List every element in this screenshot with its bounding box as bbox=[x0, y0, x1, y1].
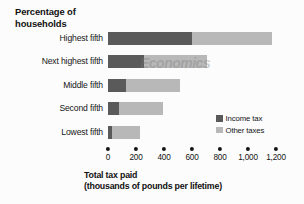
axis-tick-dot bbox=[134, 147, 138, 151]
axis-tick-dot bbox=[218, 147, 222, 151]
category-label: Next highest fifth bbox=[3, 55, 103, 68]
value-axis: 02004006008001,0001,200 bbox=[108, 147, 276, 167]
axis-tick-dot bbox=[190, 147, 194, 151]
legend-swatch-icon bbox=[216, 127, 223, 134]
bar-segment-income-tax bbox=[108, 55, 144, 68]
axis-tick-label: 600 bbox=[185, 153, 198, 163]
legend-item: Income tax bbox=[216, 113, 264, 124]
bar-segment-other-taxes bbox=[192, 32, 272, 45]
bar-segment-income-tax bbox=[108, 79, 126, 92]
legend-label: Other taxes bbox=[226, 126, 265, 135]
bar-chart: Percentage of households Highest fifthNe… bbox=[0, 0, 304, 204]
bar-row bbox=[108, 55, 276, 68]
axis-tick-dot bbox=[162, 147, 166, 151]
bar-segment-income-tax bbox=[108, 102, 119, 115]
axis-tick-label: 0 bbox=[106, 153, 110, 163]
axis-tick-dot bbox=[106, 147, 110, 151]
axis-tick-dot bbox=[246, 147, 250, 151]
category-label: Second fifth bbox=[3, 102, 103, 115]
category-axis-labels: Highest fifthNext highest fifthMiddle fi… bbox=[0, 28, 103, 145]
axis-tick-label: 1,000 bbox=[238, 153, 258, 163]
bar-row bbox=[108, 32, 276, 45]
bar-segment-income-tax bbox=[108, 32, 192, 45]
category-label: Lowest fifth bbox=[3, 126, 103, 139]
axis-tick-label: 400 bbox=[157, 153, 170, 163]
bar-row bbox=[108, 79, 276, 92]
axis-tick-label: 800 bbox=[213, 153, 226, 163]
category-label: Middle fifth bbox=[3, 79, 103, 92]
axis-tick-label: 1,200 bbox=[266, 153, 286, 163]
axis-title: Total tax paid (thousands of pounds per … bbox=[84, 170, 304, 192]
category-label: Highest fifth bbox=[3, 32, 103, 45]
bar-segment-other-taxes bbox=[126, 79, 180, 92]
legend-swatch-icon bbox=[216, 115, 223, 122]
chart-legend: Income taxOther taxes bbox=[216, 113, 264, 136]
chart-title: Percentage of households bbox=[15, 6, 145, 29]
bar-segment-other-taxes bbox=[112, 126, 140, 139]
axis-tick-dot bbox=[274, 147, 278, 151]
axis-tick-label: 200 bbox=[129, 153, 142, 163]
bar-segment-other-taxes bbox=[119, 102, 163, 115]
legend-item: Other taxes bbox=[216, 125, 264, 136]
legend-label: Income tax bbox=[226, 114, 263, 123]
bar-segment-other-taxes bbox=[144, 55, 207, 68]
